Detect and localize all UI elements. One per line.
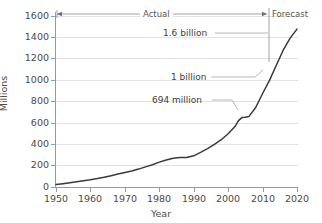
callout-1-billion: 1 billion <box>171 72 207 82</box>
callout-694-million: 694 million <box>152 95 202 105</box>
data-series-line <box>56 29 297 184</box>
chart-vector-layer <box>0 0 322 223</box>
span-label-actual: Actual <box>140 9 173 19</box>
callout-leader-1-billion <box>211 70 263 77</box>
span-label-forecast: Forecast <box>272 9 308 19</box>
callout-1-6-billion: 1.6 billion <box>163 28 207 38</box>
population-line-chart: 1600 1400 1200 1000 800 600 400 200 0 19… <box>0 0 322 223</box>
callout-leader-694-million <box>212 100 238 110</box>
